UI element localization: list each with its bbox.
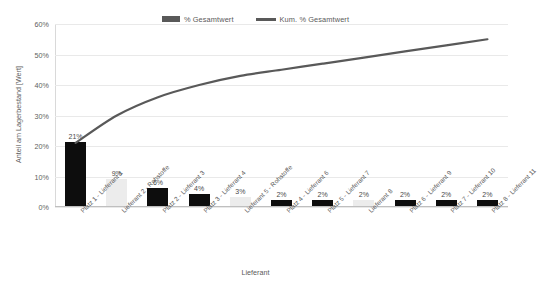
- y-tick-label: 50%: [35, 50, 49, 59]
- legend-entry-line[interactable]: Kum. % Gesamtwert: [256, 15, 349, 24]
- y-tick-label: 30%: [35, 111, 49, 120]
- line-swatch-icon: [256, 18, 276, 21]
- x-axis-tick-labels: Platz 1 - Lieferant 1Lieferant 2 - Rohst…: [55, 209, 508, 265]
- legend-label-line: Kum. % Gesamtwert: [280, 15, 349, 24]
- y-axis-tick-labels: 60%50%40%30%20%10%0%: [0, 24, 52, 207]
- y-tick-label: 60%: [35, 20, 49, 29]
- y-tick-label: 0%: [39, 203, 49, 212]
- legend-label-bar: % Gesamtwert: [184, 15, 234, 24]
- cumulative-line[interactable]: [76, 39, 488, 143]
- legend-entry-bar[interactable]: % Gesamtwert: [162, 15, 234, 24]
- y-tick-label: 40%: [35, 81, 49, 90]
- y-tick-label: 20%: [35, 142, 49, 151]
- y-tick-label: 10%: [35, 172, 49, 181]
- x-axis-title: Lieferant: [0, 268, 511, 277]
- bar-swatch-icon: [162, 16, 180, 22]
